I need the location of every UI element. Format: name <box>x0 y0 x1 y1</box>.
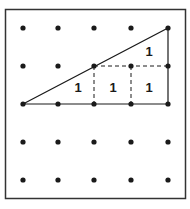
grid-dot <box>55 63 60 68</box>
grid-dot <box>128 63 133 68</box>
area-label: 1 <box>145 80 152 95</box>
grid-dot <box>91 139 96 144</box>
grid-dot <box>55 177 60 182</box>
geoboard-diagram: 1111 <box>0 0 190 209</box>
grid-dot <box>165 139 170 144</box>
grid-dot <box>128 25 133 30</box>
grid-dot <box>91 101 96 106</box>
grid-dot <box>20 177 25 182</box>
grid-dot <box>20 25 25 30</box>
grid-dot <box>128 177 133 182</box>
grid-dot <box>91 63 96 68</box>
grid-dot <box>20 63 25 68</box>
grid-dot <box>20 139 25 144</box>
grid-dot <box>91 25 96 30</box>
grid-dot <box>165 25 170 30</box>
grid-dot <box>165 177 170 182</box>
grid-dot <box>55 139 60 144</box>
grid-dot <box>20 101 25 106</box>
grid-dot <box>55 25 60 30</box>
grid-dot <box>165 63 170 68</box>
grid-dot <box>91 177 96 182</box>
area-labels: 1111 <box>74 44 152 95</box>
area-label: 1 <box>74 80 81 95</box>
area-label: 1 <box>145 44 152 59</box>
grid-dot <box>165 101 170 106</box>
dashed-unit-square-lines <box>94 66 168 104</box>
grid-dot <box>128 101 133 106</box>
grid-dot <box>55 101 60 106</box>
area-label: 1 <box>109 80 116 95</box>
grid-dot <box>128 139 133 144</box>
